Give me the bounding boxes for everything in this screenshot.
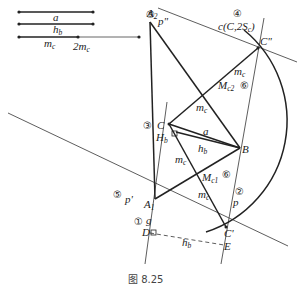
label-circle-c: c(C,2Sc) xyxy=(218,20,255,34)
label-p-single: p' xyxy=(124,193,134,205)
label-C2: C" xyxy=(260,35,272,47)
marker-4: ④ xyxy=(233,8,242,19)
given-hb-label: hb xyxy=(53,23,63,37)
label-D: D xyxy=(141,226,150,238)
marker-5b: ⑤ xyxy=(113,189,122,200)
marker-1: ① xyxy=(134,216,143,227)
label-E: E xyxy=(223,240,231,252)
label-Hb: Hb xyxy=(155,131,168,145)
circle-c-arc xyxy=(206,30,287,232)
seg-hb-dashed: hb xyxy=(182,236,192,250)
given-segments xyxy=(19,12,139,37)
given-mc-label: mc xyxy=(44,37,56,51)
label-C: C xyxy=(157,119,165,131)
label-p-double: p" xyxy=(157,15,169,27)
marker-6b: ⑥ xyxy=(240,80,249,91)
label-p: p xyxy=(232,196,239,208)
seg-mc-left: mc xyxy=(175,153,187,167)
line-p-double xyxy=(158,8,297,62)
label-Mc2: Mc2 xyxy=(217,79,235,93)
marker-6a: ⑥ xyxy=(222,169,231,180)
label-C1: C' xyxy=(224,227,234,239)
label-A1: A1 xyxy=(143,198,154,212)
seg-hb: hb xyxy=(198,142,208,156)
marker-5a: ⑤ xyxy=(146,9,155,20)
right-angle-d xyxy=(151,230,156,235)
given-a-label: a xyxy=(53,11,59,23)
label-Mc1: Mc1 xyxy=(201,171,218,185)
figure-caption: 图 8.25 xyxy=(128,274,163,285)
marker-3: ③ xyxy=(143,120,152,131)
label-g: g xyxy=(146,214,152,226)
seg-a: a xyxy=(203,125,209,137)
given-2mc-label: 2mc xyxy=(73,40,90,54)
seg-mc-low: mc xyxy=(198,188,210,202)
label-B: B xyxy=(242,143,249,155)
seg-mc-mid: mc xyxy=(196,101,208,115)
geometry-figure: a hb mc 2mc A2 C" ③ C Hb B A1 C' D E Mc1… xyxy=(0,0,301,290)
seg-mc-top: mc xyxy=(234,65,246,79)
